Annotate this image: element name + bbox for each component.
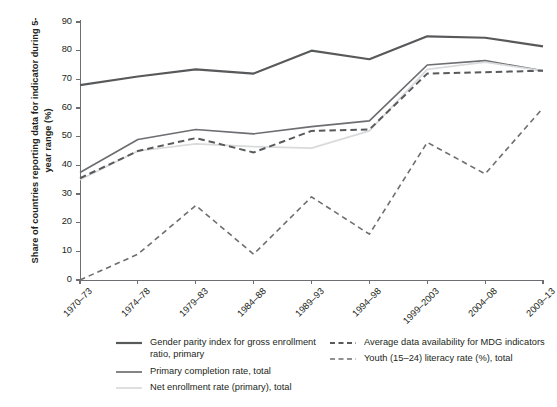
series-line	[80, 62, 543, 180]
legend-item[interactable]: Net enrollment rate (primary), total	[116, 381, 321, 393]
legend-item[interactable]: Youth (15–24) literacy rate (%), total	[330, 352, 545, 364]
series-line	[80, 71, 543, 178]
legend-label: Average data availability for MDG indica…	[364, 336, 545, 348]
legend-label: Youth (15–24) literacy rate (%), total	[364, 352, 545, 364]
legend-item[interactable]: Gender parity index for gross enrollment…	[116, 336, 321, 361]
series-line	[80, 108, 543, 280]
legend-label: Gender parity index for gross enrollment…	[150, 336, 321, 361]
legend-item[interactable]: Primary completion rate, total	[116, 365, 321, 377]
legend-column-right: Average data availability for MDG indica…	[330, 336, 545, 369]
legend-column-left: Gender parity index for gross enrollment…	[116, 336, 321, 398]
legend-label: Primary completion rate, total	[150, 365, 321, 377]
series-line	[80, 61, 543, 173]
legend-item[interactable]: Average data availability for MDG indica…	[330, 336, 545, 348]
legend-label: Net enrollment rate (primary), total	[150, 381, 321, 393]
series-line	[80, 36, 543, 85]
